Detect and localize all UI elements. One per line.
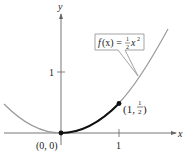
point-label: (1, 1 2 )	[123, 99, 147, 116]
svg-text:1: 1	[138, 99, 142, 107]
function-graph: y x 1 1 (0, 0) (1, 1 2 ) f (x) = 1 2 x 2	[0, 0, 186, 154]
highlighted-arc	[61, 104, 119, 134]
x-tick-label: 1	[116, 140, 121, 151]
svg-text:): )	[143, 103, 147, 116]
origin-point	[59, 131, 64, 136]
y-axis-label: y	[57, 1, 63, 12]
svg-text:2: 2	[126, 44, 129, 50]
svg-text:x: x	[130, 37, 136, 48]
x-axis-arrow-icon	[171, 131, 177, 135]
svg-text:(1,: (1,	[123, 103, 135, 116]
function-callout: f (x) = 1 2 x 2	[95, 34, 144, 76]
y-axis-arrow-icon	[59, 13, 63, 19]
svg-text:2: 2	[137, 36, 140, 42]
y-tick-label: 1	[49, 67, 54, 78]
svg-text:1: 1	[126, 36, 129, 42]
point-1-half	[117, 101, 122, 106]
origin-label: (0, 0)	[36, 140, 58, 152]
svg-text:(x) =: (x) =	[102, 37, 122, 49]
svg-text:2: 2	[138, 108, 142, 116]
x-axis-label: x	[177, 128, 183, 139]
